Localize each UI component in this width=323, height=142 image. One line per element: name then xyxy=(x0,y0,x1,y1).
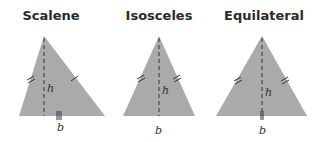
height-label: h xyxy=(162,84,169,97)
base-label: b xyxy=(155,124,162,137)
equilateral-triangle: h b xyxy=(216,36,307,137)
height-label: h xyxy=(265,86,272,99)
isosceles-triangle: h b xyxy=(123,36,195,137)
triangles-diagram: h b h b h b xyxy=(0,0,323,142)
height-label: h xyxy=(47,82,54,95)
base-label: b xyxy=(57,121,64,134)
scalene-triangle: h b xyxy=(19,36,105,134)
base-label: b xyxy=(259,124,266,137)
